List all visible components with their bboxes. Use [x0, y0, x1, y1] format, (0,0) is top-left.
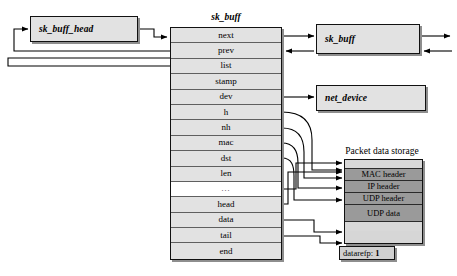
sk-buff-field-len: len	[171, 167, 281, 182]
sk-buff-field-head: head	[171, 197, 281, 212]
sk-buff-next-label: sk_buff	[317, 34, 355, 44]
packet-row-ip-header: IP header	[345, 181, 422, 193]
sk-buff-head-label: sk_buff_head	[31, 24, 93, 34]
datarefp-badge: datarefp: 1	[339, 246, 395, 260]
net-device-box[interactable]: net_device	[316, 85, 426, 111]
wire-tail-to-storage-tail	[282, 220, 342, 232]
sk-buff-field-dev: dev	[171, 90, 281, 105]
packet-row-pad-5	[345, 222, 422, 231]
sk-buff-field-next: next	[171, 28, 281, 43]
sk-buff-field-prev: prev	[171, 43, 281, 58]
packet-data-storage-table: MAC headerIP headerUDP headerUDP data	[344, 159, 423, 244]
sk-buff-field-mac: mac	[171, 136, 281, 151]
datarefp-value: 1	[373, 248, 379, 258]
wire-list-left	[8, 58, 170, 66]
sk-buff-field-h: h	[171, 105, 281, 120]
sk-buff-struct-table: nextprevliststampdevhnhmacdstlen...headd…	[170, 27, 282, 260]
sk-buff-field-list: list	[171, 59, 281, 74]
sk-buff-field-tail: tail	[171, 228, 281, 243]
sk-buff-head-box[interactable]: sk_buff_head	[30, 16, 138, 42]
packet-row-udp-data: UDP data	[345, 205, 422, 222]
datarefp-label: datarefp:	[343, 248, 373, 258]
packet-row-udp-header: UDP header	[345, 193, 422, 205]
diagram-canvas: sk_buff_head sk_buff nextprevliststampde…	[0, 0, 457, 276]
wire-head-to-next	[140, 29, 167, 37]
packet-data-storage-title: Packet data storage	[330, 146, 434, 156]
sk-buff-field-ellipsis: ...	[171, 182, 281, 197]
sk-buff-field-stamp: stamp	[171, 74, 281, 89]
sk-buff-field-nh: nh	[171, 120, 281, 135]
wire-end-to-storage-end	[282, 236, 342, 243]
packet-row-pad-0	[345, 160, 422, 169]
sk-buff-field-end: end	[171, 243, 281, 258]
net-device-label: net_device	[317, 93, 367, 103]
packet-row-mac-header: MAC header	[345, 169, 422, 181]
sk-buff-next-box[interactable]: sk_buff	[316, 24, 420, 54]
sk-buff-field-data: data	[171, 213, 281, 228]
sk-buff-field-dst: dst	[171, 151, 281, 166]
sk-buff-title: sk_buff	[168, 12, 284, 22]
